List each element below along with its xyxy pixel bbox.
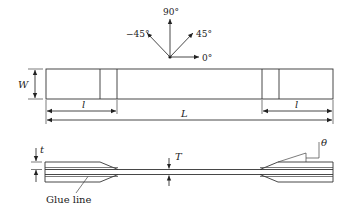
label-minus45: −45° — [126, 29, 150, 39]
label-0: 0° — [202, 53, 212, 63]
top-view: W l l L — [18, 69, 333, 124]
specimen-outline — [46, 69, 333, 99]
specimen-diagram: 90° 45° −45° 0° W l — [0, 0, 353, 215]
fiber-orientation-rose: 90° 45° −45° 0° — [126, 7, 212, 63]
width-dimension: W — [18, 69, 43, 99]
right-tab-assembly — [260, 162, 333, 182]
taper-angle-annotation: θ — [278, 137, 327, 162]
specimen-thickness-dimension: T — [169, 151, 183, 186]
glue-line-label: Glue line — [46, 194, 92, 205]
arrow-45-icon — [170, 33, 193, 57]
tab-length-label-left: l — [82, 99, 85, 110]
label-45: 45° — [196, 29, 212, 39]
taper-angle-label: θ — [321, 137, 327, 148]
tab-length-label-right: l — [295, 99, 298, 110]
glue-line-callout: Glue line — [46, 177, 92, 206]
total-length-dimension: L — [47, 108, 332, 120]
tab-length-dimension-right: l — [263, 99, 332, 111]
tab-length-dimension-left: l — [47, 99, 116, 111]
tab-thickness-label: t — [40, 144, 45, 155]
width-label: W — [18, 79, 29, 90]
arrow-minus45-icon — [147, 33, 170, 57]
side-view: t T θ Glue line — [31, 137, 333, 205]
specimen-thickness-label: T — [175, 151, 183, 162]
total-length-label: L — [180, 108, 188, 119]
left-tab-assembly — [45, 162, 118, 182]
label-90: 90° — [163, 7, 179, 17]
tab-thickness-dimension: t — [31, 144, 45, 182]
